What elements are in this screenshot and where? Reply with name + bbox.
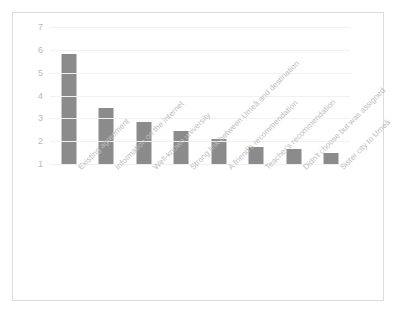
x-axis-tick-label: Strong link between Umeå and destination <box>189 166 195 172</box>
gridline <box>50 96 350 97</box>
bar[interactable] <box>324 153 339 164</box>
gridline <box>50 141 350 142</box>
x-axis-tick-label: Well-known university <box>152 166 158 172</box>
x-axis-tick-label: A friend's recommendation <box>227 166 233 172</box>
y-axis-tick-label: 6 <box>38 45 43 54</box>
x-axis-tick-label: Teacher's recommendation <box>264 166 270 172</box>
y-axis-tick-label: 1 <box>38 160 43 169</box>
y-axis-tick-label: 5 <box>38 68 43 77</box>
y-axis-tick-label: 4 <box>38 91 43 100</box>
chart-figure: 7654321 Existing agreementInformation on… <box>0 0 399 321</box>
gridline <box>50 27 350 28</box>
y-axis-tick-label: 7 <box>38 23 43 32</box>
y-axis-tick-label: 3 <box>38 114 43 123</box>
x-axis-tick-label: Didn't choose but was assigned <box>302 166 308 172</box>
x-axis-tick-label: Information on the internet <box>114 166 120 172</box>
x-axis-labels: Existing agreementInformation on the int… <box>50 166 370 296</box>
gridline <box>50 50 350 51</box>
x-axis-tick-label: Existing agreement <box>77 166 83 172</box>
plot-area: 7654321 <box>50 27 350 164</box>
bar[interactable] <box>61 54 76 164</box>
x-axis-tick-label: Sister city to Umeå <box>339 166 345 172</box>
gridline <box>50 73 350 74</box>
y-axis-tick-label: 2 <box>38 137 43 146</box>
